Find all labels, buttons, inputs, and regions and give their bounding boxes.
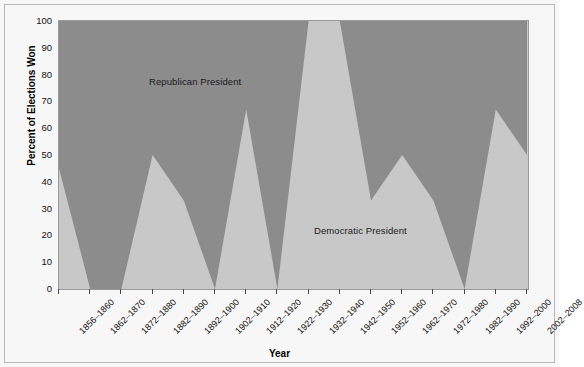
x-tick-mark bbox=[183, 289, 184, 294]
x-tick-mark bbox=[58, 289, 59, 294]
x-tick-mark bbox=[276, 289, 277, 294]
x-tick-mark bbox=[432, 289, 433, 294]
x-tick-mark bbox=[464, 289, 465, 294]
x-tick-mark bbox=[89, 289, 90, 294]
x-tick-mark bbox=[245, 289, 246, 294]
x-tick-mark bbox=[495, 289, 496, 294]
x-axis-title: Year bbox=[0, 348, 559, 359]
x-tick-mark bbox=[401, 289, 402, 294]
x-tick-mark bbox=[120, 289, 121, 294]
x-tick-mark bbox=[308, 289, 309, 294]
x-tick-mark bbox=[152, 289, 153, 294]
x-tick-mark bbox=[370, 289, 371, 294]
x-tick-mark bbox=[339, 289, 340, 294]
x-tick-mark bbox=[214, 289, 215, 294]
x-tick-mark bbox=[526, 289, 527, 294]
